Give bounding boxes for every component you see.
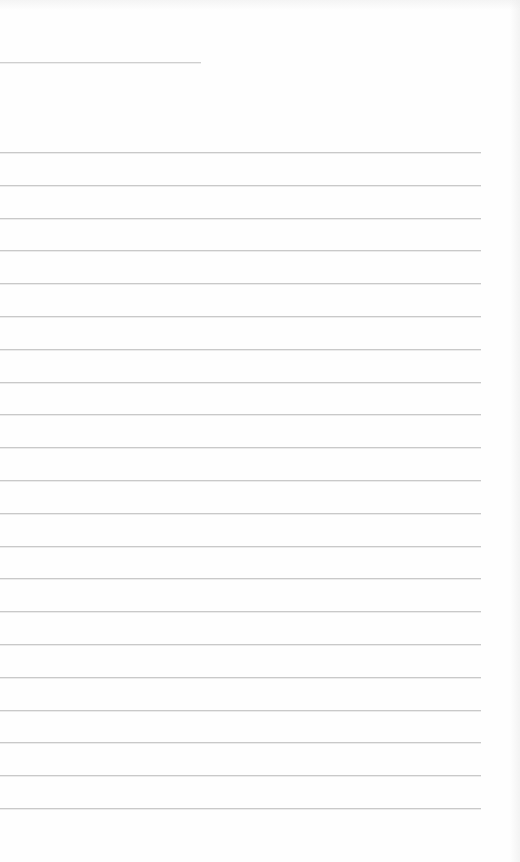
rule-line	[0, 742, 481, 743]
header-rule-line	[0, 62, 201, 63]
rule-line	[0, 185, 481, 186]
rule-line	[0, 578, 481, 579]
rule-line	[0, 480, 481, 481]
rule-line	[0, 414, 481, 415]
rule-line	[0, 218, 481, 219]
rule-line	[0, 513, 481, 514]
top-edge-shadow	[0, 0, 520, 10]
rule-line	[0, 316, 481, 317]
rule-line	[0, 546, 481, 547]
right-edge-shadow	[510, 0, 520, 862]
rule-line	[0, 710, 481, 711]
rule-line	[0, 283, 481, 284]
lined-paper-page	[0, 0, 520, 862]
rule-line	[0, 349, 481, 350]
rule-line	[0, 677, 481, 678]
rule-line	[0, 382, 481, 383]
rule-line	[0, 644, 481, 645]
rule-line	[0, 611, 481, 612]
rule-line	[0, 808, 481, 809]
rule-line	[0, 775, 481, 776]
rule-line	[0, 152, 481, 153]
rule-line	[0, 250, 481, 251]
rule-line	[0, 447, 481, 448]
